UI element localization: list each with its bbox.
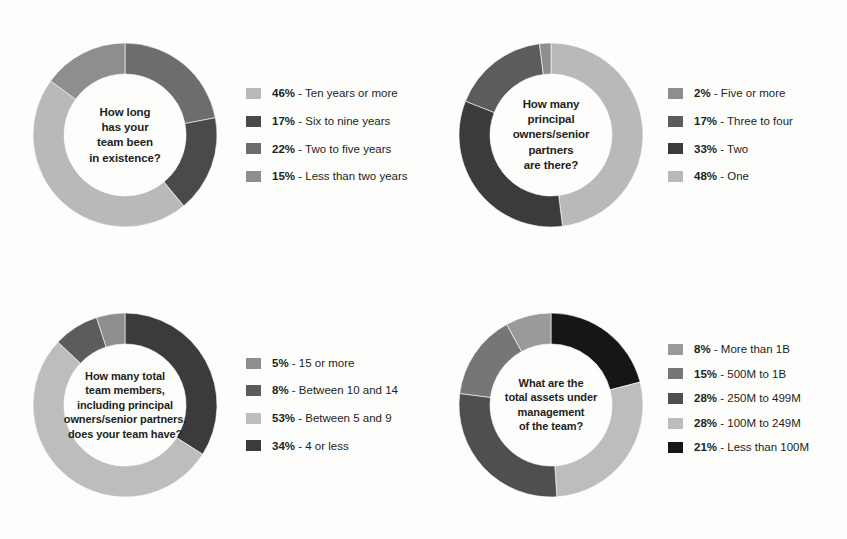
legend-dash: -	[295, 87, 305, 99]
donut-segment[interactable]	[551, 313, 640, 390]
legend-text: 33% - Two	[694, 143, 748, 156]
legend-percent: 28%	[694, 392, 717, 404]
legend-percent: 17%	[272, 115, 295, 127]
donut-svg-team-size	[30, 310, 220, 500]
legend-swatch	[246, 413, 261, 424]
donut-segment[interactable]	[125, 43, 215, 124]
chart-panel-team-tenure: How longhas yourteam beenin existence? 4…	[0, 0, 424, 270]
legend-swatch	[668, 88, 683, 99]
legend-text: 15% - 500M to 1B	[694, 368, 786, 381]
legend-row[interactable]: 21% - Less than 100M	[668, 441, 839, 454]
legend-dash: -	[295, 143, 305, 155]
legend-label: Less than two years	[305, 170, 407, 182]
legend-percent: 15%	[694, 368, 717, 380]
donut-segment[interactable]	[460, 324, 522, 397]
legend-dash: -	[295, 440, 305, 452]
donut-svg-team-tenure	[30, 40, 220, 230]
legend-swatch	[668, 393, 683, 404]
legend-percent: 21%	[694, 441, 717, 453]
legend-swatch	[668, 116, 683, 127]
legend-swatch	[246, 88, 261, 99]
legend-text: 34% - 4 or less	[272, 440, 349, 453]
legend-row[interactable]: 34% - 4 or less	[246, 440, 416, 453]
donut-chart-team-size[interactable]: How many totalteam members,including pri…	[30, 310, 220, 500]
legend-percent: 48%	[694, 170, 717, 182]
legend-text: 2% - Five or more	[694, 87, 785, 100]
legend-row[interactable]: 8% - More than 1B	[668, 343, 839, 356]
legend-dash: -	[289, 384, 299, 396]
chart-panel-assets-under-management: What are thetotal assets undermanagement…	[424, 270, 847, 539]
legend-label: One	[727, 170, 749, 182]
legend-percent: 5%	[272, 357, 289, 369]
legend-row[interactable]: 15% - 500M to 1B	[668, 368, 839, 381]
legend-row[interactable]: 8% - Between 10 and 14	[246, 384, 416, 397]
legend-percent: 8%	[694, 343, 711, 355]
legend-percent: 33%	[694, 143, 717, 155]
donut-chart-principal-owners[interactable]: How manyprincipalowners/seniorpartnersar…	[456, 40, 646, 230]
donut-charts-page: How longhas yourteam beenin existence? 4…	[0, 0, 847, 539]
legend-text: 53% - Between 5 and 9	[272, 412, 392, 425]
legend-percent: 17%	[694, 115, 717, 127]
legend-dash: -	[717, 441, 727, 453]
donut-chart-team-tenure[interactable]: How longhas yourteam beenin existence?	[30, 40, 220, 230]
legend-dash: -	[717, 170, 727, 182]
legend-swatch	[668, 344, 683, 355]
legend-row[interactable]: 2% - Five or more	[668, 87, 839, 100]
legend-label: Three to four	[727, 115, 793, 127]
legend-percent: 53%	[272, 412, 295, 424]
legend-dash: -	[717, 368, 727, 380]
legend-label: Six to nine years	[305, 115, 390, 127]
donut-segment[interactable]	[551, 43, 643, 226]
legend-label: Between 10 and 14	[299, 384, 398, 396]
donut-segment[interactable]	[555, 382, 643, 497]
legend-label: Between 5 and 9	[305, 412, 391, 424]
donut-segment[interactable]	[459, 393, 557, 497]
legend-dash: -	[295, 115, 305, 127]
legend-dash: -	[711, 87, 721, 99]
legend-label: 4 or less	[305, 440, 348, 452]
donut-segment[interactable]	[33, 81, 184, 227]
legend-swatch	[246, 440, 261, 451]
legend-dash: -	[717, 392, 727, 404]
legend-row[interactable]: 22% - Two to five years	[246, 143, 416, 156]
legend-swatch	[668, 368, 683, 379]
legend-text: 21% - Less than 100M	[694, 441, 809, 454]
legend-text: 17% - Six to nine years	[272, 115, 390, 128]
legend-percent: 8%	[272, 384, 289, 396]
donut-svg-assets-under-management	[456, 310, 646, 500]
donut-chart-assets-under-management[interactable]: What are thetotal assets undermanagement…	[456, 310, 646, 500]
legend-row[interactable]: 28% - 250M to 499M	[668, 392, 839, 405]
legend-swatch	[246, 143, 261, 154]
legend-percent: 2%	[694, 87, 711, 99]
legend-row[interactable]: 48% - One	[668, 170, 839, 183]
legend-swatch	[668, 143, 683, 154]
legend-dash: -	[717, 115, 727, 127]
legend-team-tenure: 46% - Ten years or more17% - Six to nine…	[220, 87, 424, 183]
donut-segment[interactable]	[459, 101, 563, 227]
legend-swatch	[246, 385, 261, 396]
legend-row[interactable]: 5% - 15 or more	[246, 357, 416, 370]
legend-row[interactable]: 15% - Less than two years	[246, 170, 416, 183]
legend-percent: 46%	[272, 87, 295, 99]
legend-label: 250M to 499M	[727, 392, 801, 404]
legend-swatch	[668, 171, 683, 182]
legend-row[interactable]: 28% - 100M to 249M	[668, 417, 839, 430]
legend-row[interactable]: 53% - Between 5 and 9	[246, 412, 416, 425]
legend-label: Two to five years	[305, 143, 391, 155]
legend-label: Two	[727, 143, 748, 155]
legend-label: Five or more	[721, 87, 786, 99]
legend-row[interactable]: 33% - Two	[668, 143, 839, 156]
donut-svg-principal-owners	[456, 40, 646, 230]
legend-principal-owners: 2% - Five or more17% - Three to four33% …	[646, 87, 847, 183]
legend-label: Less than 100M	[727, 441, 809, 453]
legend-text: 5% - 15 or more	[272, 357, 354, 370]
legend-row[interactable]: 46% - Ten years or more	[246, 87, 416, 100]
legend-row[interactable]: 17% - Six to nine years	[246, 115, 416, 128]
legend-swatch	[246, 171, 261, 182]
legend-dash: -	[295, 170, 305, 182]
donut-segment[interactable]	[125, 313, 217, 454]
legend-row[interactable]: 17% - Three to four	[668, 115, 839, 128]
legend-percent: 34%	[272, 440, 295, 452]
legend-text: 15% - Less than two years	[272, 170, 408, 183]
donut-segment[interactable]	[465, 44, 543, 113]
